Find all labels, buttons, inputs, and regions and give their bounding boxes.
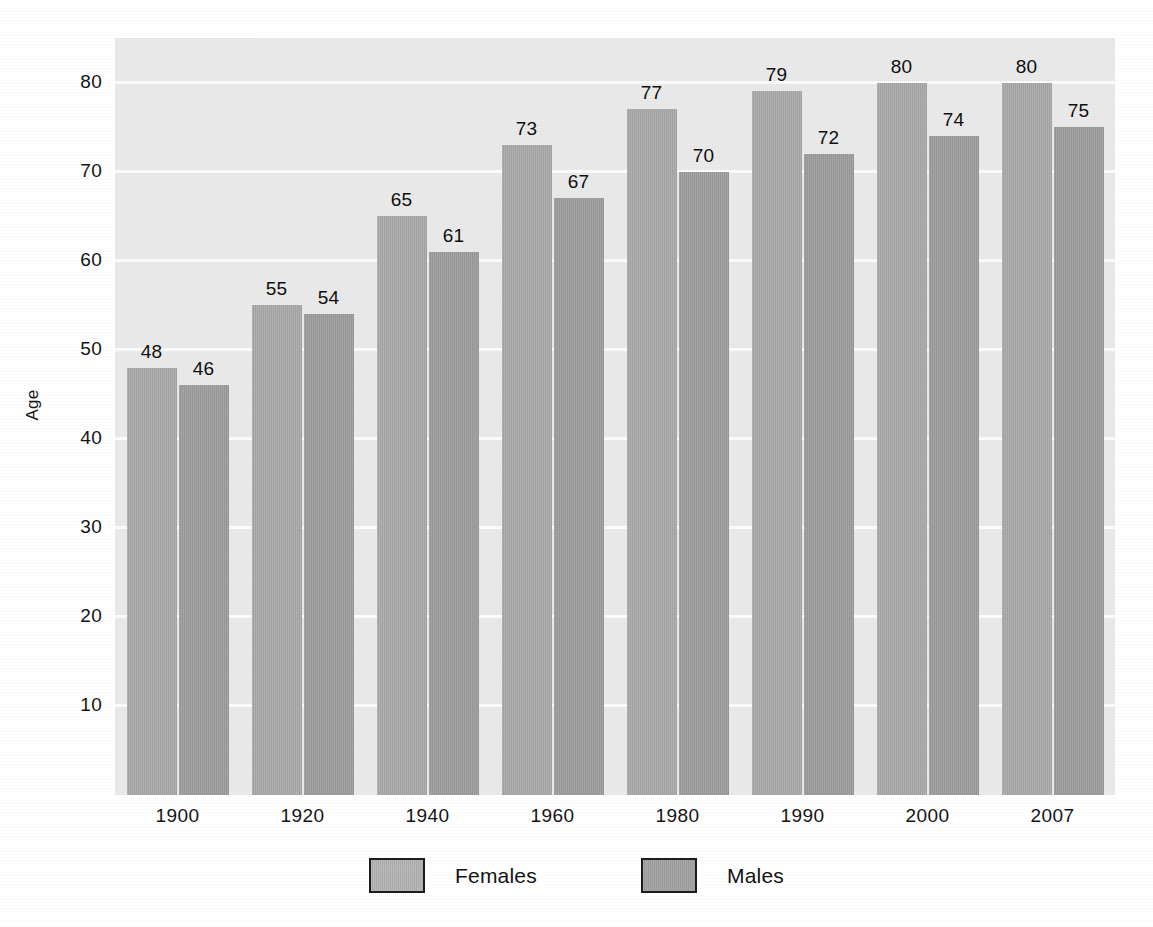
bar-females-1940 <box>377 216 427 795</box>
bar-females-1980 <box>627 109 677 795</box>
chart-legend: FemalesMales <box>0 858 1153 893</box>
bar-chart: 1020304050607080 Age 1900192019401960198… <box>0 0 1153 927</box>
bar-value-label: 77 <box>619 82 685 104</box>
bar-females-1900 <box>127 368 177 795</box>
bar-value-label: 67 <box>546 171 612 193</box>
x-tick-label-1990: 1990 <box>740 805 865 827</box>
y-tick-label: 20 <box>68 605 102 627</box>
bar-value-label: 46 <box>171 358 237 380</box>
bar-value-label: 80 <box>994 56 1060 78</box>
bar-males-1990 <box>804 154 854 795</box>
bar-value-label: 61 <box>421 225 487 247</box>
bar-value-label: 54 <box>296 287 362 309</box>
x-tick-label-1920: 1920 <box>240 805 365 827</box>
y-tick-label: 40 <box>68 427 102 449</box>
bar-value-label: 79 <box>744 64 810 86</box>
x-tick-label-2000: 2000 <box>865 805 990 827</box>
bar-males-1940 <box>429 252 479 795</box>
bar-males-2007 <box>1054 127 1104 795</box>
legend-swatch-males <box>641 858 697 893</box>
legend-label-females: Females <box>455 864 537 888</box>
bar-value-label: 72 <box>796 127 862 149</box>
y-tick-label: 80 <box>68 71 102 93</box>
bar-value-label: 65 <box>369 189 435 211</box>
bar-value-label: 80 <box>869 56 935 78</box>
y-tick-label: 70 <box>68 160 102 182</box>
bar-males-1920 <box>304 314 354 795</box>
gridline <box>115 81 1115 84</box>
bar-males-1960 <box>554 198 604 795</box>
y-tick-label: 30 <box>68 516 102 538</box>
x-tick-label-1980: 1980 <box>615 805 740 827</box>
bar-males-2000 <box>929 136 979 795</box>
x-tick-label-2007: 2007 <box>990 805 1115 827</box>
y-tick-label: 60 <box>68 249 102 271</box>
plot-area <box>115 38 1115 795</box>
y-tick-label: 10 <box>68 694 102 716</box>
bar-females-2007 <box>1002 83 1052 795</box>
bar-males-1980 <box>679 172 729 795</box>
bar-females-2000 <box>877 83 927 795</box>
y-tick-label: 50 <box>68 338 102 360</box>
legend-item-females[interactable]: Females <box>369 858 537 893</box>
bar-value-label: 75 <box>1046 100 1112 122</box>
bar-females-1960 <box>502 145 552 795</box>
bar-value-label: 73 <box>494 118 560 140</box>
bar-females-1920 <box>252 305 302 795</box>
bar-value-label: 74 <box>921 109 987 131</box>
legend-item-males[interactable]: Males <box>641 858 784 893</box>
bar-females-1990 <box>752 91 802 795</box>
bar-males-1900 <box>179 385 229 795</box>
x-tick-label-1960: 1960 <box>490 805 615 827</box>
x-tick-label-1900: 1900 <box>115 805 240 827</box>
y-axis-title: Age <box>23 360 43 450</box>
legend-swatch-females <box>369 858 425 893</box>
x-tick-label-1940: 1940 <box>365 805 490 827</box>
bar-value-label: 70 <box>671 145 737 167</box>
legend-label-males: Males <box>727 864 784 888</box>
